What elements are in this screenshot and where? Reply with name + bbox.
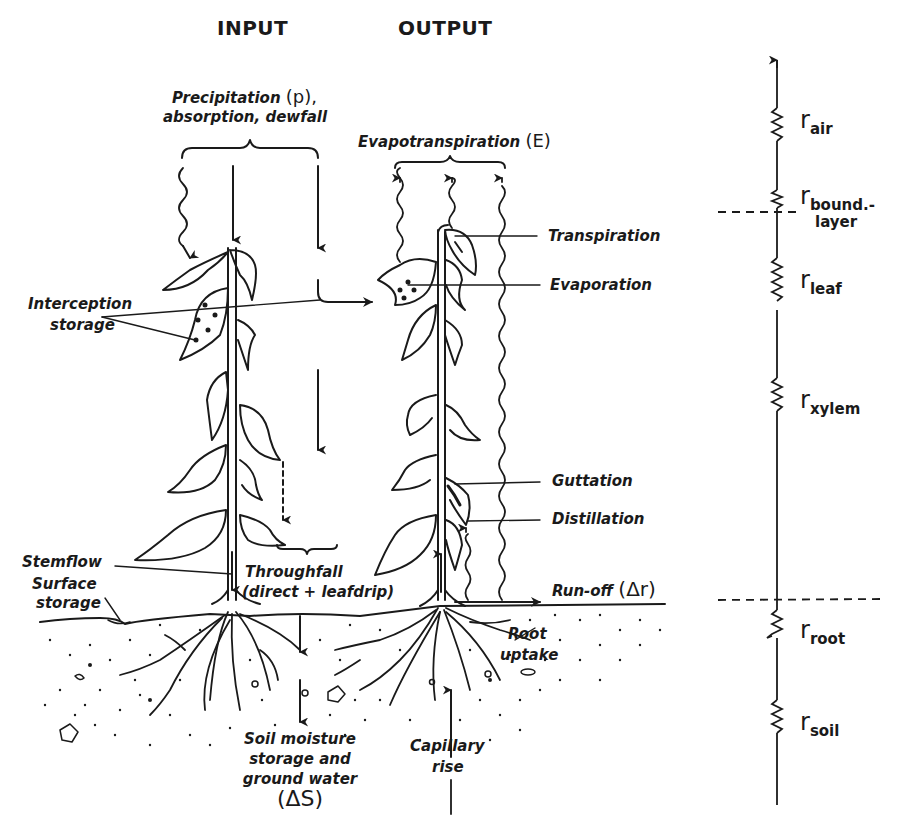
- resistor-xylem: [772, 378, 782, 411]
- r-xylem-label: rxylem: [800, 388, 860, 421]
- output-header: OUTPUT: [398, 16, 492, 40]
- dewfall-wavy-arrow: [179, 168, 190, 258]
- absorption-dewfall-label: absorption, dewfall: [163, 108, 327, 126]
- interception-leader-1: [102, 300, 320, 317]
- input-plant: [135, 248, 285, 604]
- throughfall-label-line1: Throughfall: [245, 563, 343, 581]
- surface-storage-label-line1: Surface: [32, 575, 97, 593]
- precipitation-brace: [182, 140, 318, 158]
- water-balance-diagram: [0, 0, 909, 837]
- transpiration-label: Transpiration: [548, 227, 660, 245]
- capillary-rise-label-line2: rise: [432, 758, 464, 776]
- resistor-leaf: [772, 258, 782, 301]
- input-roots: [120, 612, 300, 715]
- capillary-rise-label-line1: Capillary: [410, 737, 485, 755]
- evapotranspiration-label: Evapotranspiration (E): [358, 132, 551, 151]
- resistor-soil: [772, 700, 782, 733]
- r-bound-sub2: layer: [815, 215, 875, 230]
- soil-moisture-symbol: (ΔS): [230, 790, 370, 810]
- stemflow-leader: [115, 566, 232, 574]
- interception-label-line1: Interception: [28, 295, 132, 313]
- r-air-base: r: [800, 106, 810, 134]
- resistor-air: [772, 108, 782, 141]
- r-soil-sub: soil: [810, 722, 840, 740]
- evapotranspiration-wavy-arrows: [397, 168, 505, 600]
- evaporation-label: Evaporation: [550, 276, 652, 294]
- runoff-label: Run-off (Δr): [552, 580, 656, 600]
- resistor-root: [767, 610, 782, 638]
- root-uptake-label-line2: uptake: [500, 646, 558, 664]
- stemflow-label: Stemflow: [22, 553, 102, 571]
- surface-storage-leader: [105, 598, 120, 620]
- resistance-network: [718, 60, 883, 805]
- ground-surface-dashed-line: [718, 599, 883, 600]
- r-air-label: rair: [800, 108, 833, 141]
- distillation-label: Distillation: [552, 510, 645, 528]
- r-soil-label: rsoil: [800, 710, 839, 743]
- r-xylem-sub: xylem: [810, 400, 860, 418]
- evapotranspiration-brace: [395, 156, 505, 168]
- interception-to-evaporation-arrow: [318, 280, 372, 302]
- surface-storage-label-line2: storage: [36, 594, 101, 612]
- ground-line: [40, 604, 665, 624]
- input-header: INPUT: [217, 16, 288, 40]
- r-root-label: rroot: [800, 618, 845, 651]
- runoff-text: Run-off: [552, 582, 613, 600]
- r-air-sub: air: [810, 120, 833, 138]
- r-bound-base: r: [800, 182, 810, 210]
- root-uptake-label-line1: Root: [508, 625, 547, 643]
- r-soil-base: r: [800, 708, 810, 736]
- guttation-leader: [455, 482, 540, 484]
- delta-s-symbol: (ΔS): [277, 786, 323, 811]
- resistor-boundary-layer: [772, 190, 782, 208]
- evapotranspiration-symbol: (E): [525, 130, 550, 151]
- interception-label-line2: storage: [50, 316, 115, 334]
- soil-moisture-label-line2: storage and: [230, 750, 370, 768]
- precipitation-text: Precipitation: [172, 89, 281, 107]
- runoff-symbol: (Δr): [618, 577, 656, 601]
- r-boundary-layer-label: rbound.-layer: [800, 184, 875, 230]
- r-leaf-sub: leaf: [810, 280, 842, 298]
- r-xylem-base: r: [800, 386, 810, 414]
- precipitation-label: Precipitation (p),: [172, 88, 317, 107]
- r-root-base: r: [800, 616, 810, 644]
- r-root-sub: root: [810, 630, 845, 648]
- r-leaf-base: r: [800, 266, 810, 294]
- guttation-label: Guttation: [552, 472, 633, 490]
- interception-leader-2: [102, 317, 195, 340]
- r-bound-sub: bound.-: [810, 196, 875, 214]
- throughfall-brace: [277, 545, 337, 554]
- r-leaf-label: rleaf: [800, 268, 842, 301]
- output-plant: [375, 225, 480, 606]
- evapotranspiration-text: Evapotranspiration: [358, 133, 520, 151]
- throughfall-label-line2: (direct + leafdrip): [242, 583, 394, 601]
- distillation-leader: [468, 520, 540, 521]
- precipitation-symbol: (p),: [286, 86, 317, 107]
- soil-stipple: [44, 614, 661, 746]
- soil-moisture-label-line1: Soil moisture: [230, 730, 370, 748]
